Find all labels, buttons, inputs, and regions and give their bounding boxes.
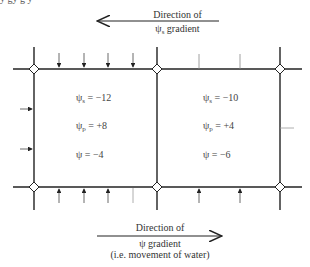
top-arrow-label-line2: ψs gradient bbox=[120, 23, 235, 38]
left-inflow-arrows bbox=[20, 109, 32, 149]
bottom-inflow-arrows bbox=[59, 189, 240, 203]
top-ticks-right bbox=[199, 54, 240, 69]
top-arrow-label-line1: Direction of bbox=[120, 9, 235, 21]
right-cell-psi: ψ = −6 bbox=[203, 149, 231, 160]
bottom-arrow-label-line3: (i.e. movement of water) bbox=[95, 249, 225, 261]
right-cell-psi-p: ψp = +4 bbox=[203, 120, 234, 133]
left-cell-psi-p: ψp = +8 bbox=[76, 120, 107, 133]
bottom-arrow-label-line1: Direction of bbox=[100, 222, 220, 234]
gradient-text: gradient bbox=[164, 23, 199, 34]
right-cell-psi-s: ψs = −10 bbox=[203, 92, 238, 105]
left-cell-psi: ψ = −4 bbox=[76, 149, 104, 160]
top-inflow-arrows bbox=[59, 53, 133, 67]
left-cell-psi-s: ψs = −12 bbox=[76, 92, 111, 105]
